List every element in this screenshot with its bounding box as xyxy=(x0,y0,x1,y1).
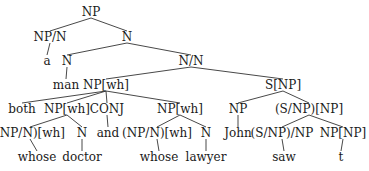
tree-node: N/N xyxy=(178,54,203,68)
tree-node: NP[wh] xyxy=(44,102,90,116)
tree-node: NP xyxy=(82,5,101,19)
tree-node: N xyxy=(122,30,133,44)
tree-node: a xyxy=(43,54,50,68)
tree-node: N xyxy=(201,126,212,140)
tree-node: (S/NP)/NP xyxy=(251,126,314,140)
tree-node: doctor xyxy=(62,150,101,164)
tree-node: t xyxy=(339,150,344,164)
tree-node: NP[wh] xyxy=(157,102,203,116)
tree-node: S[NP] xyxy=(265,78,301,92)
tree-node: and xyxy=(97,126,120,140)
tree-node: whose xyxy=(140,150,178,164)
tree-node: (S/NP)[NP] xyxy=(275,102,343,116)
tree-node: N xyxy=(62,54,73,68)
tree-node: saw xyxy=(272,150,296,164)
tree-node: (NP/N)[wh] xyxy=(122,126,192,140)
tree-node: NP/N xyxy=(33,30,66,44)
tree-node: John xyxy=(224,126,252,140)
syntax-tree-diagram: NPNP/NNaNN/NmanNP[wh]S[NP]bothNP[wh]CONJ… xyxy=(0,0,369,171)
tree-edge xyxy=(67,43,127,55)
tree-node: whose xyxy=(18,150,56,164)
tree-node: N xyxy=(77,126,88,140)
tree-node: lawyer xyxy=(186,150,227,164)
tree-node: both xyxy=(8,102,35,116)
tree-node: NP xyxy=(229,102,248,116)
tree-node: CONJ xyxy=(90,102,124,116)
tree-node: NP[wh] xyxy=(83,78,129,92)
tree-node: NP[NP] xyxy=(320,126,367,140)
tree-node: (NP/N)[wh] xyxy=(0,126,65,140)
tree-node: man xyxy=(53,78,79,92)
